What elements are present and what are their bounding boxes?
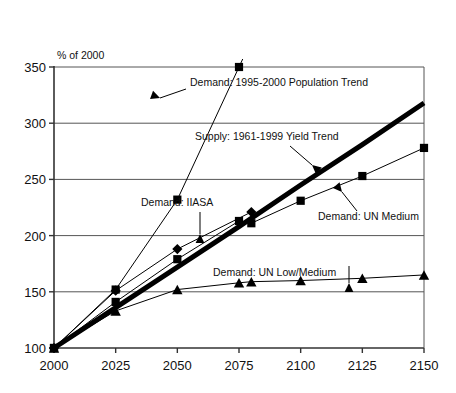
data-point-2150	[420, 144, 428, 152]
x-tick-label-2075: 2075	[225, 358, 254, 373]
data-point-2100	[297, 197, 305, 205]
annotation-label: Demand: IIASA	[141, 196, 213, 208]
y-axis-title: % of 2000	[57, 49, 104, 61]
annotation-label: Demand: UN Medium	[318, 210, 419, 222]
y-tick-label-250: 250	[24, 172, 46, 187]
x-tick-label-2050: 2050	[163, 358, 192, 373]
annotation-label: Supply: 1961-1999 Yield Trend	[195, 130, 339, 142]
x-tick-label-2150: 2150	[410, 358, 439, 373]
y-tick-label-100: 100	[24, 341, 46, 356]
y-tick-label-350: 350	[24, 60, 46, 75]
data-point-2125	[358, 172, 366, 180]
data-point-2075	[235, 63, 243, 71]
x-tick-label-2025: 2025	[101, 358, 130, 373]
x-tick-label-2125: 2125	[348, 358, 377, 373]
y-tick-label-150: 150	[24, 285, 46, 300]
annotation-label: Demand: 1995-2000 Population Trend	[190, 76, 368, 88]
y-tick-label-200: 200	[24, 229, 46, 244]
x-tick-label-2000: 2000	[40, 358, 69, 373]
data-point-2050	[173, 255, 181, 263]
y-tick-label-300: 300	[24, 116, 46, 131]
line-chart-canvas: 100150200250300350 200020252050207521002…	[0, 0, 456, 393]
chart-figure: 100150200250300350 200020252050207521002…	[0, 0, 456, 393]
x-tick-label-2100: 2100	[286, 358, 315, 373]
annotation-label: Demand: UN Low/Medium	[213, 266, 336, 278]
